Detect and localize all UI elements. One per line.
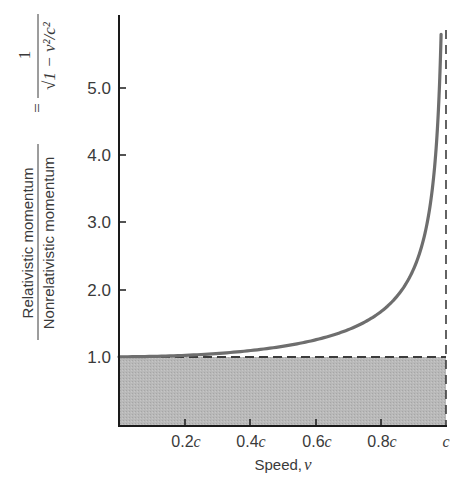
formula-denominator: √1 − v²/c² bbox=[40, 21, 59, 90]
y-tick-label-4: 4.0 bbox=[87, 146, 111, 165]
x-tick-label-c: c bbox=[442, 433, 449, 450]
y-tick-labels: 1.0 2.0 3.0 4.0 5.0 bbox=[87, 79, 111, 367]
x-tick-label-0.6c: 0.6c bbox=[302, 433, 331, 450]
y-label-equals: = bbox=[28, 103, 47, 113]
x-tick-labels: 0.2c 0.4c 0.6c 0.8c c bbox=[171, 433, 449, 450]
y-axis-label: Relativistic momentum Nonrelativistic mo… bbox=[15, 14, 59, 340]
y-tick-label-5: 5.0 bbox=[87, 79, 111, 98]
y-label-numerator: Relativistic momentum bbox=[19, 168, 36, 319]
y-ticks bbox=[119, 88, 126, 290]
formula-numerator: 1 bbox=[15, 51, 34, 60]
y-tick-label-2: 2.0 bbox=[87, 281, 111, 300]
chart: 1.0 2.0 3.0 4.0 5.0 0.2c 0.4c 0.6c 0.8c … bbox=[0, 0, 471, 489]
y-label-denominator: Nonrelativistic momentum bbox=[40, 157, 57, 330]
lorentz-factor-curve bbox=[119, 34, 441, 356]
x-tick-label-0.8c: 0.8c bbox=[367, 433, 396, 450]
x-tick-label-0.2c: 0.2c bbox=[171, 433, 200, 450]
y-tick-label-3: 3.0 bbox=[87, 213, 111, 232]
x-tick-label-0.4c: 0.4c bbox=[236, 433, 265, 450]
nonrelativistic-shaded-region bbox=[119, 357, 446, 426]
y-tick-label-1: 1.0 bbox=[87, 348, 111, 367]
x-axis-label: Speed,v bbox=[254, 455, 312, 474]
